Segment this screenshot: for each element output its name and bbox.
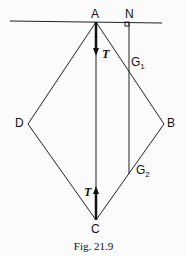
label-T-bottom: T: [84, 186, 91, 198]
figure-caption: Fig. 21.9: [0, 240, 187, 252]
label-C: C: [91, 223, 100, 235]
label-N: N: [125, 8, 134, 20]
label-G1: G1: [131, 56, 145, 71]
arrow-down-icon: [93, 48, 99, 56]
label-B: B: [167, 117, 175, 129]
label-T-top: T: [102, 48, 109, 60]
diagram: [0, 0, 187, 256]
label-G2: G2: [136, 164, 150, 179]
horizontal-support: [10, 21, 162, 23]
label-A: A: [91, 8, 99, 20]
label-D: D: [15, 117, 24, 129]
arrow-up-icon: [93, 186, 99, 194]
